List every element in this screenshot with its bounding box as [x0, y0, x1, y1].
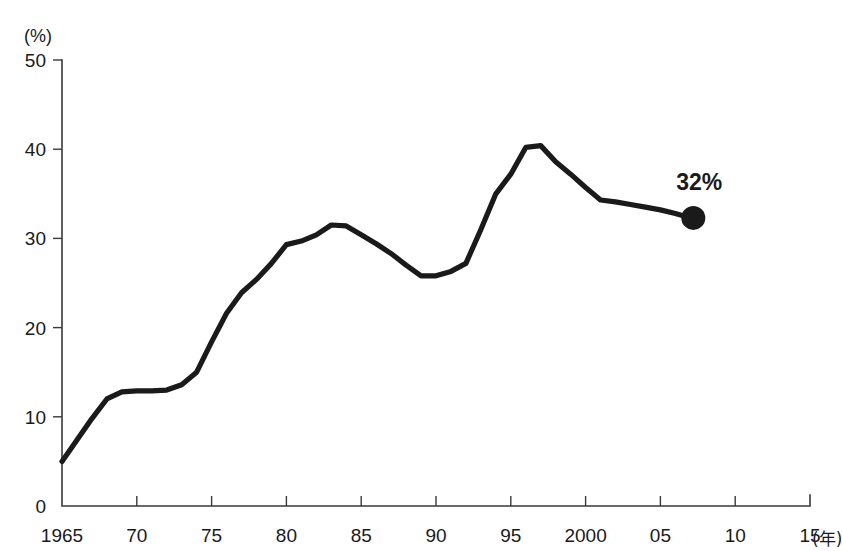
- x-axis-tick-label: 2000: [564, 525, 606, 546]
- x-axis-tick-labels: 19657075808590952000051015: [41, 525, 821, 546]
- y-axis-tick-label: 0: [35, 496, 46, 517]
- x-axis-tick-label: 80: [276, 525, 297, 546]
- x-axis-tick-group: [137, 496, 735, 506]
- end-point-marker: [681, 206, 705, 230]
- y-axis-tick-label: 20: [25, 318, 46, 339]
- x-axis-unit-label: (年): [812, 529, 842, 549]
- chart-axes: [62, 60, 810, 506]
- y-axis-tick-label: 40: [25, 139, 46, 160]
- x-axis-tick-label: 75: [201, 525, 222, 546]
- chart-svg: 01020304050 19657075808590952000051015 (…: [0, 0, 842, 551]
- y-axis-tick-group: [53, 60, 62, 417]
- x-axis-tick-label: 1965: [41, 525, 83, 546]
- x-axis-tick-label: 10: [725, 525, 746, 546]
- line-chart-figure: 01020304050 19657075808590952000051015 (…: [0, 0, 842, 551]
- x-axis-tick-label: 90: [425, 525, 446, 546]
- y-axis-tick-label: 30: [25, 228, 46, 249]
- y-axis-tick-label: 50: [25, 50, 46, 71]
- x-axis-tick-label: 95: [500, 525, 521, 546]
- value-annotation-label: 32%: [676, 169, 722, 195]
- y-axis-tick-labels: 01020304050: [25, 50, 46, 517]
- y-axis-unit-label: (%): [24, 26, 52, 46]
- data-series-line: [62, 146, 690, 462]
- x-axis-tick-label: 70: [126, 525, 147, 546]
- y-axis-tick-label: 10: [25, 407, 46, 428]
- x-axis-tick-label: 85: [351, 525, 372, 546]
- x-axis-tick-label: 05: [650, 525, 671, 546]
